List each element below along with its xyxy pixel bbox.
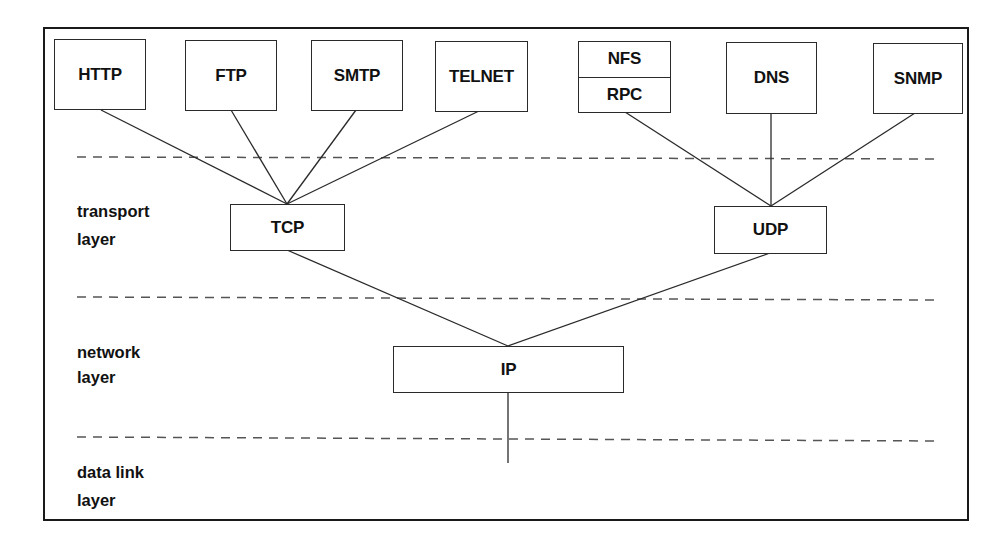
protocol-box-http: HTTP <box>54 39 146 110</box>
layer-label-data-link: data link layer <box>77 458 144 514</box>
protocol-box-smtp: SMTP <box>311 40 403 111</box>
layer-label-transport: transport layer <box>77 197 149 253</box>
protocol-box-snmp: SNMP <box>873 43 963 114</box>
protocol-label: SNMP <box>894 69 942 89</box>
protocol-box-ftp: FTP <box>185 40 277 111</box>
protocol-box-nfs-rpc: NFS RPC <box>578 41 671 113</box>
protocol-label: HTTP <box>78 65 122 85</box>
protocol-label: IP <box>501 360 517 380</box>
layer-separator-transport-network <box>77 297 940 300</box>
protocol-box-dns: DNS <box>726 42 817 114</box>
edge-udp-ip <box>508 253 770 346</box>
layer-separator-app-transport <box>77 157 940 159</box>
protocol-label: SMTP <box>334 66 380 86</box>
protocol-label: FTP <box>215 66 247 86</box>
protocol-label: TCP <box>271 218 304 238</box>
protocol-label-nfs: NFS <box>579 42 670 77</box>
edge-smtp-tcp <box>287 110 356 204</box>
protocol-box-ip: IP <box>393 346 624 393</box>
protocol-label: DNS <box>754 68 789 88</box>
layer-label-network: network layer <box>77 340 140 390</box>
protocol-label-rpc: RPC <box>579 77 670 113</box>
edge-telnet-tcp <box>287 110 481 204</box>
protocol-label: UDP <box>753 220 788 240</box>
protocol-box-tcp: TCP <box>230 204 345 251</box>
protocol-box-udp: UDP <box>714 206 827 254</box>
protocol-box-telnet: TELNET <box>435 41 528 112</box>
protocol-label: TELNET <box>449 67 514 87</box>
